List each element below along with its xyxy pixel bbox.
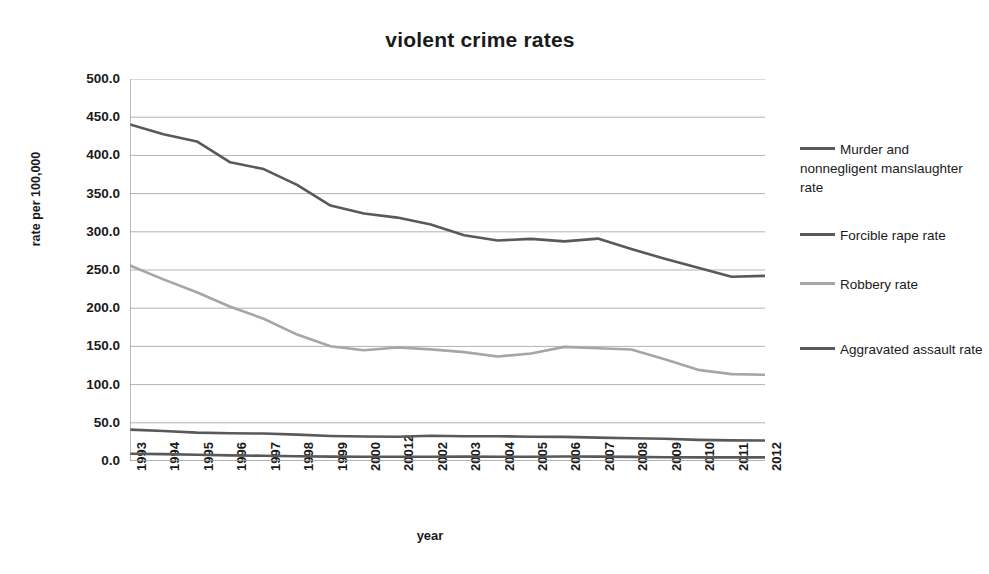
y-tick-label: 0.0	[52, 454, 120, 468]
legend-entry[interactable]: Murder and nonnegligent manslaughter rat…	[800, 140, 985, 196]
y-tick-label: 400.0	[52, 148, 120, 162]
plot-area	[130, 79, 765, 461]
series-line	[130, 430, 765, 441]
legend-entry[interactable]: Forcible rape rate	[800, 226, 985, 245]
y-tick-label: 150.0	[52, 339, 120, 353]
y-tick-label: 350.0	[52, 187, 120, 201]
y-axis-title: rate per 100,000	[29, 119, 43, 279]
series-line	[130, 454, 765, 458]
gridlines	[130, 79, 765, 461]
legend-label: Robbery rate	[840, 277, 918, 292]
chart-figure: violent crime rates rate per 100,000 yea…	[0, 0, 989, 574]
y-tick-label: 50.0	[52, 416, 120, 430]
legend-swatch	[800, 347, 835, 350]
legend-label: Forcible rape rate	[840, 228, 946, 243]
legend-label: Aggravated assault rate	[840, 342, 983, 357]
legend-entry[interactable]: Robbery rate	[800, 275, 985, 294]
y-tick-label: 450.0	[52, 110, 120, 124]
y-tick-label: 200.0	[52, 301, 120, 315]
y-tick-label: 300.0	[52, 225, 120, 239]
x-tick-label: 2012	[770, 442, 783, 471]
chart-title: violent crime rates	[200, 28, 760, 52]
legend-swatch	[800, 233, 835, 236]
series-line	[130, 265, 765, 374]
y-tick-label: 250.0	[52, 263, 120, 277]
legend-swatch	[800, 147, 835, 150]
plot-canvas	[130, 79, 765, 461]
y-tick-label: 100.0	[52, 378, 120, 392]
series-line	[130, 124, 765, 276]
data-series-group	[130, 124, 765, 457]
x-axis-title: year	[330, 528, 530, 543]
legend-swatch	[800, 282, 835, 285]
y-tick-label: 500.0	[52, 72, 120, 86]
chart-legend: Murder and nonnegligent manslaughter rat…	[800, 140, 985, 359]
legend-entry[interactable]: Aggravated assault rate	[800, 340, 985, 359]
